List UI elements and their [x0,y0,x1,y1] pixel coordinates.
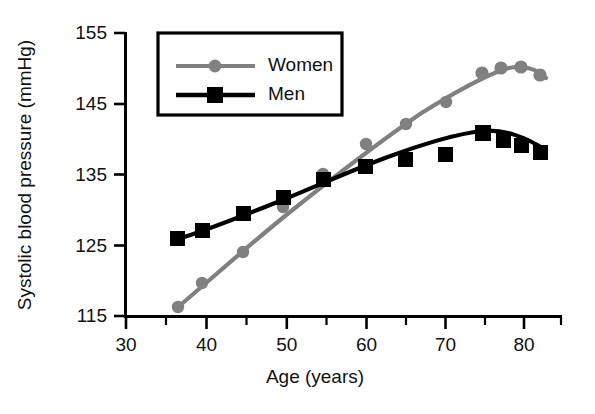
data-point-men [236,206,251,221]
x-tick-label-30: 30 [100,334,152,356]
x-tick-label-50: 50 [261,334,313,356]
y-tick-label-155: 155 [55,22,107,44]
legend-label-women: Women [268,54,333,76]
data-point-women [237,246,249,258]
x-axis-title: Age (years) [205,366,425,388]
data-point-men [514,138,529,153]
data-point-men [496,133,511,148]
data-point-men [195,223,210,238]
data-point-women [533,68,546,81]
y-axis-title: Systolic blood pressure (mmHg) [14,5,40,345]
data-point-women [475,66,488,79]
x-tick-label-60: 60 [341,334,393,356]
data-point-women [196,277,208,289]
legend-swatch-marker-men [207,87,223,103]
data-point-men [533,145,548,160]
data-point-men [475,125,491,141]
data-point-men [398,152,413,167]
x-axis-minor-ticks [166,317,561,325]
x-tick-label-40: 40 [181,334,233,356]
x-axis-major-ticks [126,317,524,329]
data-point-women [494,61,507,74]
data-point-women [172,301,184,313]
data-point-women [440,96,452,108]
y-tick-label-115: 115 [55,305,107,327]
chart-figure: Systolic blood pressure (mmHg) Age (year… [0,0,595,414]
y-axis-ticks [114,33,125,316]
legend-swatch-marker-women [209,60,222,73]
data-point-men [316,172,331,187]
data-point-women [360,138,372,150]
data-point-women [514,60,527,73]
data-point-men [276,190,291,205]
x-tick-label-80: 80 [498,334,550,356]
data-point-men [170,231,185,246]
legend-label-men: Men [268,83,305,105]
x-tick-label-70: 70 [420,334,472,356]
y-tick-label-145: 145 [55,93,107,115]
data-point-men [438,147,453,162]
series-markers-men [170,125,548,246]
y-tick-label-125: 125 [55,235,107,257]
data-point-women [400,118,412,130]
data-point-men [358,159,373,174]
y-tick-label-135: 135 [55,164,107,186]
